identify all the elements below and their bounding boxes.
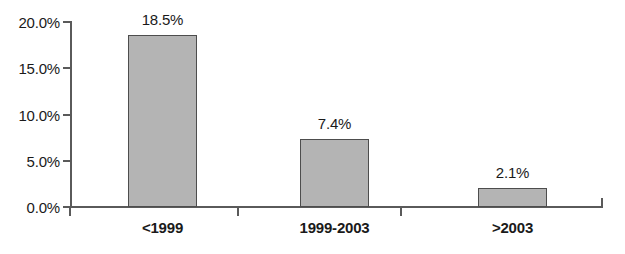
bar-value-label-lt-1999: 18.5% (113, 12, 212, 27)
y-axis-label-20: 20.0% (18, 15, 60, 30)
y-axis-label-5: 5.0% (27, 154, 60, 169)
bar-value-label-1999-2003: 7.4% (285, 116, 384, 131)
bar-gt-2003 (478, 188, 547, 207)
y-axis-label-10: 10.0% (18, 108, 60, 123)
bar-lt-1999 (128, 35, 197, 207)
bar-1999-2003 (300, 139, 369, 207)
x-tick-mark-1 (237, 207, 239, 216)
x-tick-mark-3 (601, 198, 603, 208)
bar-chart: 20.0% 15.0% 10.0% 5.0% 0.0% 18.5% <1999 … (0, 0, 625, 254)
y-tick-mark-20 (63, 21, 71, 23)
y-axis-label-15: 15.0% (18, 61, 60, 76)
bar-value-label-gt-2003: 2.1% (463, 165, 562, 180)
x-tick-mark-2 (400, 207, 402, 216)
y-tick-mark-10 (63, 114, 71, 116)
x-axis-category-1999-2003: 1999-2003 (275, 220, 394, 235)
y-tick-mark-5 (63, 160, 71, 162)
x-axis-category-gt-2003: >2003 (463, 220, 562, 235)
y-axis-label-0: 0.0% (27, 200, 60, 215)
y-tick-mark-15 (63, 67, 71, 69)
x-tick-mark-0 (69, 207, 71, 216)
x-axis-category-lt-1999: <1999 (113, 220, 212, 235)
